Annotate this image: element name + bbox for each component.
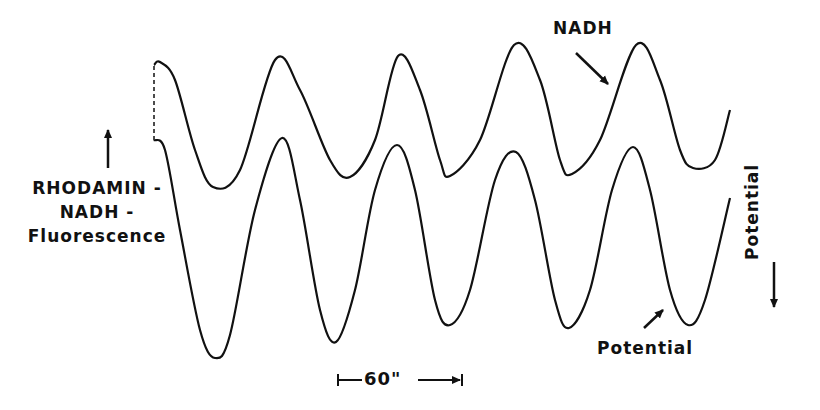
potential-annotation-label: Potential xyxy=(597,338,693,358)
nadh-annotation-label: NADH xyxy=(553,18,613,38)
nadh-pointer-arrow-icon xyxy=(576,53,608,84)
left-axis-label-line1: RHODAMIN - xyxy=(12,176,182,200)
left-axis-label-line3: Fluorescence xyxy=(12,224,182,248)
left-axis-label-line2: NADH - xyxy=(12,200,182,224)
oscillation-figure: RHODAMIN - NADH - Fluorescence NADH Pote… xyxy=(0,0,820,410)
time-scale-label: 60" xyxy=(364,368,401,389)
left-axis-label: RHODAMIN - NADH - Fluorescence xyxy=(12,176,182,248)
potential-pointer-arrow-icon xyxy=(644,310,663,328)
right-axis-label: Potential xyxy=(742,164,762,260)
